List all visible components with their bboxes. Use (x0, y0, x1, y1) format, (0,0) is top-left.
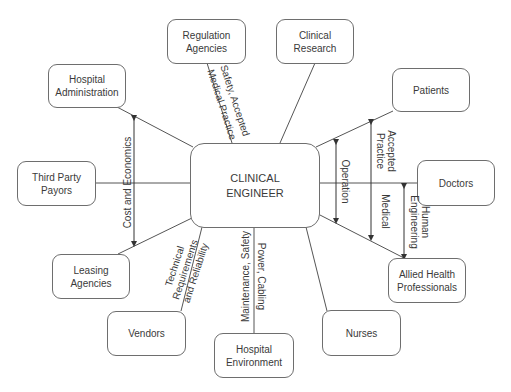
node-hospital-administration: Hospital Administration (48, 64, 126, 108)
node-allied-health: Allied Health Professionals (388, 258, 466, 303)
node-clinical-engineer: CLINICAL ENGINEER (190, 143, 320, 228)
label-accepted-practice: Accepted Practice (375, 121, 397, 181)
node-regulation-agencies: Regulation Agencies (167, 19, 246, 64)
label-power-cabling: Power, Cabling (256, 237, 267, 317)
label-maintenance-safety: Maintenance, Safety (240, 227, 251, 327)
node-nurses: Nurses (322, 310, 401, 356)
node-vendors: Vendors (107, 311, 186, 356)
node-patients: Patients (392, 68, 470, 112)
label-cost-economics: Cost and Economics (122, 128, 133, 238)
node-leasing-agencies: Leasing Agencies (52, 254, 130, 299)
node-hospital-environment: Hospital Environment (214, 333, 294, 378)
label-human-engineering: Human Engineering (409, 187, 431, 257)
label-operation: Operation (340, 152, 351, 212)
node-third-party-payors: Third Party Payors (17, 161, 96, 206)
node-clinical-research: Clinical Research (276, 19, 354, 64)
label-medical: Medical (380, 187, 391, 237)
